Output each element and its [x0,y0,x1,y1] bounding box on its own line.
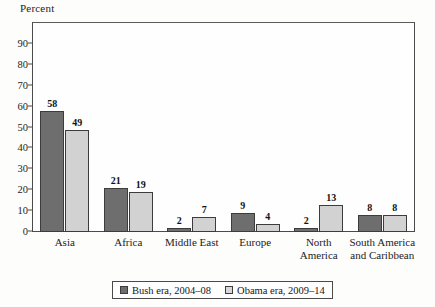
bar-obama [192,217,216,232]
x-axis-category-label-line: Africa [114,236,142,249]
bar-value-label: 2 [304,215,309,226]
y-axis-tick-label: 90 [6,37,28,48]
y-axis-title: Percent [20,2,54,14]
bar-value-label: 13 [326,192,336,203]
bar-bush [294,228,318,232]
x-axis-category-label-line: America [300,249,338,262]
bar-bush [40,111,64,232]
bar-bush [104,188,128,232]
chart-legend: Bush era, 2004–08Obama era, 2009–14 [112,281,333,299]
y-axis-tick-label: 60 [6,100,28,111]
bar-group: 213 [294,23,343,232]
y-axis-tick-label: 20 [6,184,28,195]
y-axis-tick-label: 70 [6,79,28,90]
x-axis-category-label: South Americaand Caribbean [349,236,415,262]
bar-bush [231,213,255,232]
bar-value-label: 7 [202,204,207,215]
bar-value-label: 9 [240,200,245,211]
x-axis-category-label-line: South America [349,236,415,249]
x-axis-category-label-line: Asia [55,236,75,249]
bar-obama [256,224,280,232]
bar-obama [65,130,89,232]
bar-obama [319,205,343,232]
bar-value-label: 8 [367,202,372,213]
bar-group: 27 [167,23,216,232]
bar-bush [167,228,191,232]
plot-area: 58492119279421388 [33,23,414,232]
x-axis-category-label-line: Middle East [165,236,218,249]
y-axis-tick-label: 40 [6,142,28,153]
bar-obama [383,215,407,232]
bar-value-label: 21 [111,175,121,186]
bar-group: 94 [231,23,280,232]
bar-value-label: 4 [265,211,270,222]
y-axis-tick-label: 50 [6,121,28,132]
bar-value-label: 49 [72,117,82,128]
x-axis-category-label: Middle East [165,236,218,249]
bar-value-label: 58 [47,98,57,109]
legend-label: Bush era, 2004–08 [132,285,211,296]
bar-value-label: 19 [136,179,146,190]
bar-obama [129,192,153,232]
legend-entry: Obama era, 2009–14 [225,285,325,296]
x-axis-category-label-line: North [300,236,338,249]
y-axis-tick-label: 30 [6,163,28,174]
x-axis-category-label-line: Europe [239,236,271,249]
bar-value-label: 8 [392,202,397,213]
bar-value-label: 2 [177,215,182,226]
chart-figure: Percent 0102030405060708090 584921192794… [0,0,435,307]
y-axis-tick-label: 0 [6,226,28,237]
x-axis-category-label: Europe [239,236,271,249]
bar-group: 5849 [40,23,89,232]
y-axis-tick-labels: 0102030405060708090 [4,22,28,232]
x-axis-category-label-line: and Caribbean [349,249,415,262]
bar-bush [358,215,382,232]
y-axis-tick-label: 80 [6,58,28,69]
legend-swatch-obama-icon [225,286,233,294]
bar-group: 88 [358,23,407,232]
x-axis-category-label: NorthAmerica [300,236,338,262]
bar-group: 2119 [104,23,153,232]
x-axis-category-label: Asia [55,236,75,249]
y-axis-tick-label: 10 [6,205,28,216]
legend-label: Obama era, 2009–14 [237,285,325,296]
legend-entry: Bush era, 2004–08 [120,285,211,296]
x-axis-category-label: Africa [114,236,142,249]
legend-swatch-bush-icon [120,286,128,294]
